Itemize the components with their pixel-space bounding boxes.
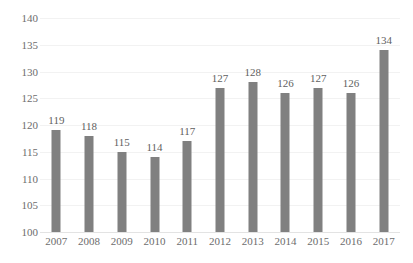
y-tick-label: 100 bbox=[4, 227, 38, 238]
bar bbox=[215, 88, 224, 232]
bar-value-label: 127 bbox=[310, 73, 327, 84]
x-tick-label: 2008 bbox=[78, 236, 100, 247]
x-tick-label: 2015 bbox=[307, 236, 329, 247]
bar bbox=[183, 141, 192, 232]
bar-value-label: 115 bbox=[114, 137, 130, 148]
bar-value-label: 119 bbox=[48, 115, 64, 126]
bar-chart: 100105110115120125130135140 119118115114… bbox=[0, 0, 413, 263]
x-tick-label: 2016 bbox=[340, 236, 362, 247]
bar-value-label: 114 bbox=[146, 142, 162, 153]
gridline-100 bbox=[40, 232, 400, 233]
bar-group: 118 bbox=[73, 18, 106, 232]
bar-group: 126 bbox=[335, 18, 368, 232]
bar-group: 115 bbox=[105, 18, 138, 232]
bar-group: 134 bbox=[367, 18, 400, 232]
y-tick-label: 105 bbox=[4, 200, 38, 211]
bar-value-label: 134 bbox=[375, 35, 392, 46]
bar bbox=[281, 93, 290, 232]
bar bbox=[314, 88, 323, 232]
x-tick-label: 2009 bbox=[111, 236, 133, 247]
bar-group: 126 bbox=[269, 18, 302, 232]
bar-value-label: 128 bbox=[244, 67, 261, 78]
x-tick-label: 2010 bbox=[144, 236, 166, 247]
bar-group: 119 bbox=[40, 18, 73, 232]
y-tick-label: 125 bbox=[4, 93, 38, 104]
y-axis: 100105110115120125130135140 bbox=[0, 0, 38, 263]
bar-group: 114 bbox=[138, 18, 171, 232]
bar bbox=[85, 136, 94, 232]
y-tick-label: 130 bbox=[4, 66, 38, 77]
x-axis: 2007200820092010201120122013201420152016… bbox=[40, 236, 400, 260]
x-tick-label: 2014 bbox=[274, 236, 296, 247]
bar-value-label: 126 bbox=[277, 78, 294, 89]
y-tick-label: 140 bbox=[4, 13, 38, 24]
bar-group: 117 bbox=[171, 18, 204, 232]
bar-group: 127 bbox=[302, 18, 335, 232]
bar bbox=[117, 152, 126, 232]
bar-series: 119118115114117127128126127126134 bbox=[40, 18, 400, 232]
bar-value-label: 126 bbox=[343, 78, 360, 89]
x-tick-label: 2012 bbox=[209, 236, 231, 247]
bar-value-label: 127 bbox=[212, 73, 229, 84]
y-tick-label: 120 bbox=[4, 120, 38, 131]
bar-group: 127 bbox=[204, 18, 237, 232]
bar-group: 128 bbox=[236, 18, 269, 232]
bar bbox=[379, 50, 388, 232]
x-tick-label: 2017 bbox=[373, 236, 395, 247]
bar bbox=[346, 93, 355, 232]
bar bbox=[52, 130, 61, 232]
y-tick-label: 115 bbox=[4, 146, 38, 157]
bar bbox=[150, 157, 159, 232]
bar bbox=[248, 82, 257, 232]
y-tick-label: 110 bbox=[4, 173, 38, 184]
y-tick-label: 135 bbox=[4, 39, 38, 50]
bar-value-label: 118 bbox=[81, 121, 97, 132]
x-tick-label: 2011 bbox=[176, 236, 198, 247]
x-tick-label: 2007 bbox=[45, 236, 67, 247]
bar-value-label: 117 bbox=[179, 126, 195, 137]
x-tick-label: 2013 bbox=[242, 236, 264, 247]
